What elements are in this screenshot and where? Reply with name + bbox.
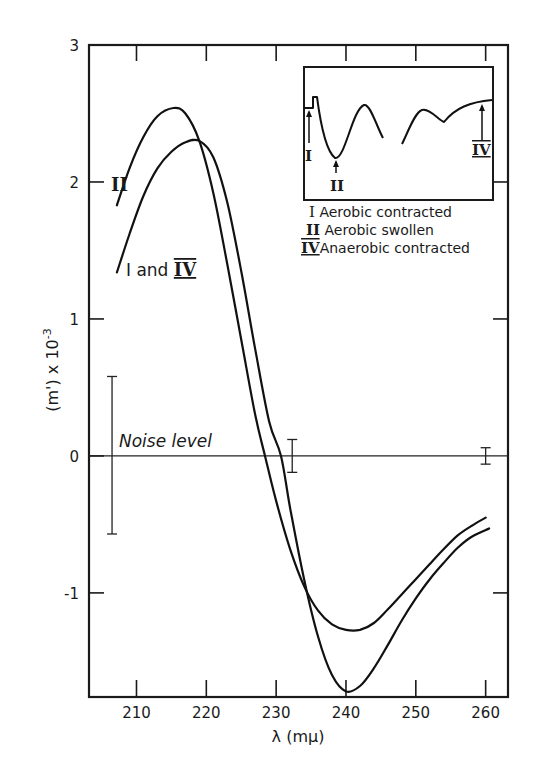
legend-item-1-text: Aerobic contracted xyxy=(319,204,452,220)
inset-numeral-II: II xyxy=(330,177,344,195)
legend-item-2-numeral: II xyxy=(306,221,320,239)
x-tick-label: 210 xyxy=(122,704,151,722)
x-tick-label: 230 xyxy=(262,704,291,722)
legend-item-3-text: Anaerobic contracted xyxy=(320,240,470,256)
legend-item-2: II Aerobic swollen xyxy=(306,221,434,239)
x-tick-label: 240 xyxy=(332,704,361,722)
legend-item-1-numeral: I xyxy=(309,203,315,221)
y-tick-label: 1 xyxy=(69,311,79,329)
y-tick-label: 3 xyxy=(69,37,79,55)
noise-error-bars xyxy=(107,376,491,534)
curve-I-IV-label: I and IV xyxy=(126,259,197,280)
y-tick-label: 2 xyxy=(69,174,79,192)
inset-numeral-I: I xyxy=(305,147,312,165)
curve-II-label: II xyxy=(111,174,128,195)
legend-item-2-text: Aerobic swollen xyxy=(325,222,434,238)
y-axis-title: (m') x 10-3 xyxy=(41,328,62,411)
y-axis-title-exponent: -3 xyxy=(41,328,54,339)
curve-I-IV-label-prefix: I and xyxy=(126,260,174,280)
y-tick-label: -1 xyxy=(64,585,79,603)
y-tick-label: 0 xyxy=(69,448,79,466)
inset-legend: I Aerobic contracted II Aerobic swollen … xyxy=(301,203,470,257)
noise-level-label: Noise level xyxy=(119,431,212,451)
y-axis-title-main: (m') x 10 xyxy=(43,339,62,411)
x-tick-label: 220 xyxy=(192,704,221,722)
inset-numeral-IV: IV xyxy=(472,141,491,159)
curve-I-IV-label-suffix: IV xyxy=(174,259,197,280)
cd-spectrum-chart: 210220230240250260 -10123 II I and IV No… xyxy=(0,0,543,781)
legend-item-3-numeral: IV xyxy=(301,239,320,257)
x-tick-label: 250 xyxy=(401,704,430,722)
legend-item-1: I Aerobic contracted xyxy=(309,203,452,221)
inset-panel: I II IV I Aerobic contracted II Aerobic … xyxy=(301,67,493,257)
legend-item-3: IVAnaerobic contracted xyxy=(301,239,470,257)
x-tick-label: 260 xyxy=(471,704,500,722)
x-axis-title: λ (mμ) xyxy=(272,727,325,746)
